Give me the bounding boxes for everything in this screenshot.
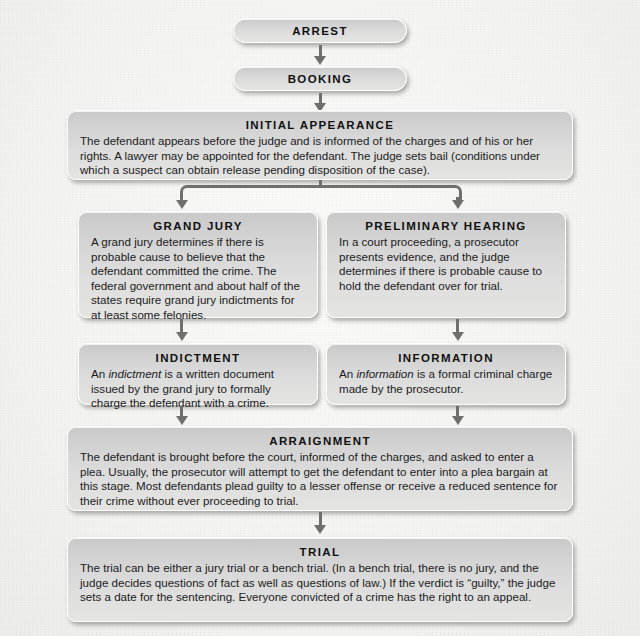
node-information-body-pre: An	[339, 367, 356, 380]
connector-information-to-arraignment-arrow	[452, 416, 464, 425]
node-initial-appearance: INITIAL APPEARANCE The defendant appears…	[67, 110, 573, 180]
connector-initial-split-right-elbow	[320, 185, 462, 202]
node-preliminary-hearing: PRELIMINARY HEARING In a court proceedin…	[326, 211, 566, 318]
node-arraignment-title: ARRAIGNMENT	[80, 434, 560, 448]
connector-initial-to-grandjury-arrow	[176, 200, 188, 209]
connector-grandjury-to-indictment-arrow	[176, 332, 188, 341]
node-indictment-body-pre: An	[91, 367, 108, 380]
node-preliminary-hearing-title: PRELIMINARY HEARING	[339, 219, 553, 233]
node-arraignment: ARRAIGNMENT The defendant is brought bef…	[67, 426, 573, 511]
node-information-body-emphasis: information	[356, 367, 413, 380]
node-indictment: INDICTMENT An indictment is a written do…	[78, 343, 318, 405]
connector-indictment-to-arraignment-arrow	[176, 416, 188, 425]
node-arraignment-body: The defendant is brought before the cour…	[80, 450, 560, 508]
node-booking-title: BOOKING	[288, 72, 353, 86]
node-arrest-title: ARREST	[292, 24, 348, 38]
node-trial: TRIAL The trial can be either a jury tri…	[67, 537, 573, 622]
node-grand-jury-title: GRAND JURY	[91, 219, 305, 233]
node-information-title: INFORMATION	[339, 351, 553, 365]
node-initial-appearance-title: INITIAL APPEARANCE	[80, 118, 560, 132]
node-information-body: An information is a formal criminal char…	[339, 367, 553, 396]
node-grand-jury: GRAND JURY A grand jury determines if th…	[78, 211, 318, 318]
criminal-case-flowchart: ARREST BOOKING INITIAL APPEARANCE The de…	[0, 0, 640, 636]
connector-arrest-to-booking-arrow	[314, 56, 326, 65]
node-booking: BOOKING	[233, 66, 407, 91]
connector-initial-split-left-elbow	[180, 185, 322, 202]
node-trial-body: The trial can be either a jury trial or …	[80, 561, 560, 605]
node-arrest: ARREST	[233, 18, 407, 43]
connector-prelim-to-information-arrow	[452, 332, 464, 341]
node-indictment-title: INDICTMENT	[91, 351, 305, 365]
node-indictment-body-emphasis: indictment	[108, 367, 161, 380]
connector-arraignment-to-trial-arrow	[314, 525, 326, 534]
node-information: INFORMATION An information is a formal c…	[326, 343, 566, 405]
node-grand-jury-body: A grand jury determines if there is prob…	[91, 235, 305, 323]
node-preliminary-hearing-body: In a court proceeding, a prosecutor pres…	[339, 235, 553, 293]
node-indictment-body: An indictment is a written document issu…	[91, 367, 305, 411]
node-initial-appearance-body: The defendant appears before the judge a…	[80, 134, 560, 178]
connector-initial-to-prelim-arrow	[452, 200, 464, 209]
node-trial-title: TRIAL	[80, 545, 560, 559]
